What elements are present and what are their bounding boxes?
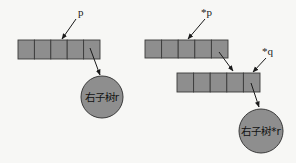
pointer-star-q-arrow — [253, 58, 266, 72]
array-cell — [34, 40, 50, 59]
array-cell — [211, 40, 228, 58]
pointer-p-arrow — [62, 19, 76, 39]
array-cell — [194, 73, 211, 92]
right-structure: *p *q 右子树*r — [145, 6, 283, 153]
array-cell — [195, 40, 212, 58]
array-cell — [51, 40, 67, 59]
array-cell — [210, 73, 227, 92]
top-array — [145, 40, 228, 58]
right-subtree-label: 右子树*r — [241, 125, 281, 137]
left-array — [18, 40, 100, 59]
array-cell — [18, 40, 34, 59]
pointer-diagram: p 右子树r *p *q — [0, 0, 296, 163]
bottom-array — [177, 73, 260, 92]
array-cell — [67, 40, 83, 59]
array-cell — [162, 40, 179, 58]
array-cell — [227, 73, 244, 92]
pointer-star-p-arrow — [188, 19, 205, 39]
array-cell — [84, 40, 100, 59]
pointer-star-q-label: *q — [262, 45, 274, 57]
array-cell — [145, 40, 162, 58]
pointer-star-p-label: *p — [201, 6, 213, 18]
array-cell — [177, 73, 194, 92]
array-cell — [178, 40, 195, 58]
pointer-p-label: p — [78, 6, 84, 18]
left-structure: p 右子树r — [18, 6, 123, 118]
array-cell — [243, 73, 260, 92]
right-subtree-label: 右子树r — [85, 91, 120, 103]
